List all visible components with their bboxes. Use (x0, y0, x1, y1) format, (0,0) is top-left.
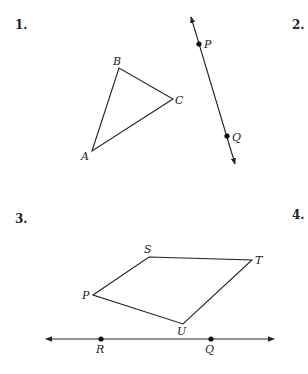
triangle-abc: A B C (80, 55, 184, 163)
vertex-label-b: B (112, 55, 121, 68)
vertex-label-u: U (177, 325, 187, 338)
vertex-label-p: P (81, 289, 90, 302)
line-pq-stroke (191, 17, 235, 164)
point-label-q: Q (232, 131, 241, 144)
line-pq: P Q (191, 17, 241, 164)
line-rq: R Q (46, 336, 274, 356)
point-q-dot (208, 336, 213, 341)
vertex-label-s: S (144, 243, 152, 256)
vertex-label-c: C (175, 94, 184, 107)
vertex-label-t: T (255, 254, 264, 267)
quadrilateral-shape (93, 257, 252, 324)
point-label-p: P (203, 38, 212, 51)
quadrilateral-pstu: P S T U (81, 243, 264, 338)
vertex-label-a: A (80, 150, 89, 163)
point-q-dot (224, 133, 229, 138)
point-p-dot (196, 41, 201, 46)
geometry-figures: A B C P Q P S T U R Q (0, 0, 308, 374)
point-label-r: R (95, 343, 104, 356)
point-label-q: Q (205, 343, 214, 356)
point-r-dot (98, 336, 103, 341)
triangle-shape (92, 68, 173, 151)
